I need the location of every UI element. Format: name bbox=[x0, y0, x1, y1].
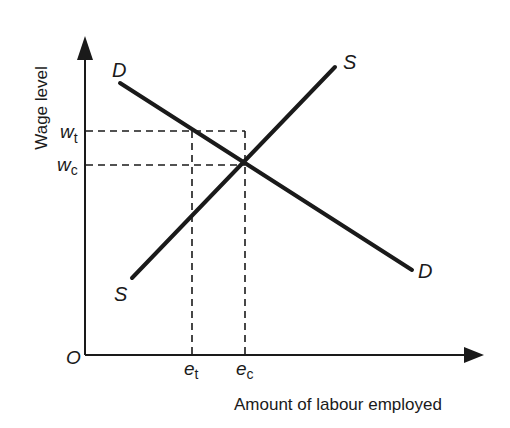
et-sub: t bbox=[195, 366, 199, 382]
x-axis bbox=[85, 347, 484, 363]
wt-label: wt bbox=[60, 121, 78, 146]
supply-end-label: S bbox=[343, 51, 357, 73]
demand-curve bbox=[120, 83, 412, 270]
ec-label: ec bbox=[236, 358, 254, 382]
origin-label: O bbox=[66, 347, 81, 368]
supply-curve bbox=[132, 67, 335, 278]
demand-start-label: D bbox=[112, 59, 126, 81]
y-axis bbox=[77, 36, 93, 355]
x-axis-arrow-icon bbox=[464, 347, 484, 363]
ec-sub: c bbox=[247, 366, 254, 382]
et-base: e bbox=[184, 358, 195, 379]
labour-market-diagram: D D S S Wage level O wt wc et ec Amount … bbox=[0, 0, 510, 428]
wt-sub: t bbox=[74, 130, 78, 146]
y-axis-arrow-icon bbox=[77, 36, 93, 60]
wc-sub: c bbox=[71, 162, 78, 178]
ec-base: e bbox=[236, 358, 247, 379]
y-axis-label: Wage level bbox=[32, 66, 51, 149]
x-axis-label: Amount of labour employed bbox=[234, 395, 442, 414]
wc-label: wc bbox=[57, 154, 78, 178]
demand-end-label: D bbox=[418, 260, 432, 282]
supply-start-label: S bbox=[114, 283, 128, 305]
et-label: et bbox=[184, 358, 199, 382]
